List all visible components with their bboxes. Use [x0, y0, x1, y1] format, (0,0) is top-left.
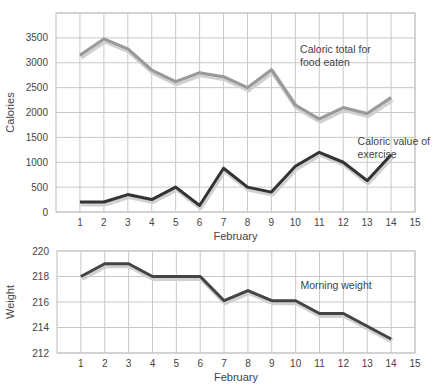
x-tick-label: 11 — [314, 217, 325, 228]
y-tick-label: 1500 — [26, 132, 49, 143]
annotation-label: Caloric total for — [300, 43, 371, 55]
x-tick-label: 6 — [197, 217, 203, 228]
y-axis-label: Weight — [4, 285, 16, 319]
x-tick-label: 1 — [77, 217, 83, 228]
x-tick-label: 14 — [386, 358, 398, 369]
x-tick-label: 3 — [126, 358, 132, 369]
annotation-label: exercise — [358, 148, 397, 160]
annotation-label: food eaten — [300, 56, 350, 68]
x-tick-label: 13 — [362, 358, 374, 369]
y-tick-label: 218 — [32, 271, 49, 282]
x-axis-label: February — [214, 371, 259, 383]
y-tick-label: 500 — [31, 182, 48, 193]
x-tick-label: 9 — [269, 358, 275, 369]
x-tick-label: 13 — [362, 217, 374, 228]
x-axis-label: February — [213, 230, 258, 242]
x-tick-label: 4 — [149, 217, 155, 228]
x-tick-label: 11 — [314, 358, 325, 369]
y-tick-label: 216 — [32, 297, 49, 308]
y-tick-label: 220 — [32, 246, 49, 257]
x-tick-label: 2 — [101, 217, 107, 228]
x-tick-label: 2 — [102, 358, 108, 369]
x-tick-label: 5 — [173, 217, 179, 228]
chart-canvas: 1234567891011121314150500100015002000250… — [0, 0, 435, 391]
calories-chart: 1234567891011121314150500100015002000250… — [4, 13, 430, 242]
y-tick-label: 3500 — [26, 32, 49, 43]
x-tick-label: 1 — [78, 358, 84, 369]
x-tick-label: 6 — [197, 358, 203, 369]
x-tick-label: 15 — [409, 358, 421, 369]
y-tick-label: 1000 — [26, 157, 49, 168]
y-axis-label: Calories — [4, 92, 16, 133]
x-tick-label: 12 — [338, 358, 350, 369]
x-tick-label: 10 — [290, 217, 302, 228]
y-tick-label: 0 — [42, 207, 48, 218]
weight-chart: 123456789101112131415212214216218220Febr… — [4, 246, 421, 384]
y-tick-label: 2000 — [26, 107, 49, 118]
x-tick-label: 14 — [386, 217, 398, 228]
y-tick-label: 2500 — [26, 82, 49, 93]
x-tick-label: 3 — [125, 217, 131, 228]
x-tick-label: 12 — [338, 217, 350, 228]
x-tick-label: 7 — [221, 358, 227, 369]
x-tick-label: 9 — [269, 217, 275, 228]
x-tick-label: 15 — [409, 217, 421, 228]
x-tick-label: 8 — [245, 217, 251, 228]
annotation-label: Caloric value of — [358, 135, 430, 147]
x-tick-label: 7 — [221, 217, 227, 228]
y-tick-label: 214 — [32, 322, 49, 333]
x-tick-label: 4 — [150, 358, 156, 369]
x-tick-label: 10 — [290, 358, 302, 369]
annotation-label: Morning weight — [300, 279, 371, 291]
y-tick-label: 3000 — [26, 57, 49, 68]
y-tick-label: 212 — [32, 348, 49, 359]
x-tick-label: 5 — [174, 358, 180, 369]
x-tick-label: 8 — [245, 358, 251, 369]
